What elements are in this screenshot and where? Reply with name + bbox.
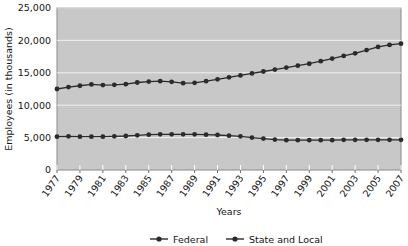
y-axis-tick-labels: 05,00010,00015,00020,00025,000 [18,2,51,175]
data-point [204,79,209,84]
data-point [364,48,369,53]
data-point [192,132,197,137]
x-axis-title: Years [215,206,241,217]
data-point [353,51,358,56]
employment-line-chart: 05,00010,00015,00020,00025,000 197719791… [0,0,408,246]
data-point [387,137,392,142]
legend-marker-federal [156,236,161,241]
x-tick-label: 1987 [154,173,177,199]
data-point [215,77,220,82]
data-point [376,137,381,142]
legend-marker-state-and-local [232,236,237,241]
data-point [89,82,94,87]
data-point [89,134,94,139]
data-point [192,80,197,85]
data-point [135,80,140,85]
x-tick-label: 2005 [360,173,383,199]
y-tick-label: 15,000 [18,67,51,78]
data-point [307,61,312,66]
x-tick-label: 1993 [223,173,246,199]
data-point [158,79,163,84]
data-point [284,65,289,70]
data-point [330,56,335,61]
data-point [181,81,186,86]
x-tick-label: 2001 [314,173,337,199]
x-tick-label: 2007 [383,173,406,199]
data-point [181,132,186,137]
y-tick-label: 5,000 [24,132,51,143]
data-point [261,136,266,141]
data-point [112,82,117,87]
x-axis-tick-labels: 1977197919811983198519871989199119931995… [39,173,406,199]
data-point [146,79,151,84]
data-point [135,133,140,138]
data-point [100,134,105,139]
y-tick-label: 25,000 [18,2,51,13]
x-tick-label: 1981 [85,173,108,199]
x-tick-label: 1995 [246,173,269,199]
data-point [250,135,255,140]
data-point [146,132,151,137]
data-point [341,137,346,142]
data-point [284,138,289,143]
data-point [353,137,358,142]
data-point [318,59,323,64]
legend-label-state-and-local[interactable]: State and Local [249,234,323,245]
data-point [55,87,60,92]
legend-label-federal[interactable]: Federal [173,234,208,245]
data-point [318,138,323,143]
y-axis-title: Employees (in thousands) [3,27,14,150]
x-tick-label: 2003 [337,173,360,199]
data-point [272,67,277,72]
data-point [307,138,312,143]
data-point [399,41,404,46]
x-tick-label: 1991 [200,173,223,199]
data-point [158,132,163,137]
data-point [215,133,220,138]
data-point [364,137,369,142]
data-point [261,69,266,74]
data-point [250,71,255,76]
data-point [100,83,105,88]
chart-figure: 05,00010,00015,00020,00025,000 197719791… [0,0,408,246]
x-tick-label: 1989 [177,173,200,199]
plot-area-background [57,8,401,170]
data-point [238,134,243,139]
data-point [169,79,174,84]
data-point [295,63,300,68]
data-point [169,132,174,137]
x-tick-label: 1997 [269,173,292,199]
x-tick-label: 1977 [39,173,62,199]
data-point [341,54,346,59]
data-point [399,137,404,142]
data-point [227,75,232,80]
data-point [66,85,71,90]
data-point [112,134,117,139]
y-tick-label: 20,000 [18,35,51,46]
data-point [227,133,232,138]
y-tick-label: 10,000 [18,100,51,111]
x-tick-label: 1979 [62,173,85,199]
data-point [376,44,381,49]
data-point [387,43,392,48]
data-point [78,134,83,139]
data-point [55,134,60,139]
data-point [238,73,243,78]
chart-legend: Federal State and Local [150,234,323,245]
x-tick-label: 1999 [292,173,315,199]
x-tick-label: 1983 [108,173,131,199]
data-point [123,134,128,139]
data-point [204,132,209,137]
data-point [123,82,128,87]
data-point [78,83,83,88]
data-point [66,134,71,139]
y-tick-label: 0 [45,164,51,175]
x-tick-label: 1985 [131,173,154,199]
data-point [272,137,277,142]
data-point [295,138,300,143]
data-point [330,138,335,143]
